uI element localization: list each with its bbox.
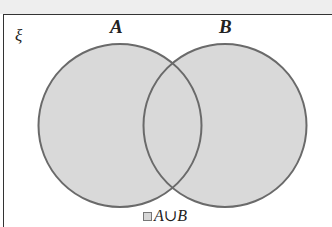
shaded-union xyxy=(39,44,307,207)
legend-label: A∪B xyxy=(154,208,187,224)
set-b-label: B xyxy=(219,17,232,36)
legend: A∪B xyxy=(143,208,187,224)
venn-diagram xyxy=(0,0,332,227)
set-a-label: A xyxy=(110,17,123,36)
legend-swatch xyxy=(143,212,152,221)
universe-label: ξ xyxy=(15,27,22,44)
